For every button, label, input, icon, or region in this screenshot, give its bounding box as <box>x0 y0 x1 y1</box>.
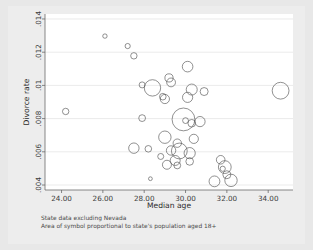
y-tick-label: .004 <box>34 177 43 193</box>
y-axis-title: Divorce rate <box>22 78 31 125</box>
x-tick-label: 24.00 <box>51 194 72 203</box>
y-tick-label: .006 <box>34 143 43 159</box>
chart-figure: .004.006.008.01.012.014 24.0026.0028.003… <box>0 0 313 250</box>
x-tick-label: 34.00 <box>258 194 279 203</box>
x-axis-title: Median age <box>147 201 192 210</box>
y-tick-label: .008 <box>34 110 43 126</box>
caption-line-1: State data excluding Nevada <box>41 215 127 222</box>
x-tick-label: 32.00 <box>217 194 238 203</box>
caption-line-2: Area of symbol proportional to state's p… <box>41 223 216 230</box>
scatter-plot-svg: .004.006.008.01.012.014 24.0026.0028.003… <box>0 0 313 250</box>
y-tick-label: .014 <box>34 11 43 27</box>
plot-area-background <box>45 14 293 190</box>
y-tick-label: .01 <box>34 80 43 91</box>
x-tick-label: 26.00 <box>93 194 114 203</box>
y-tick-label: .012 <box>34 44 43 60</box>
y-axis-ticks-group: .004.006.008.01.012.014 <box>34 11 45 193</box>
